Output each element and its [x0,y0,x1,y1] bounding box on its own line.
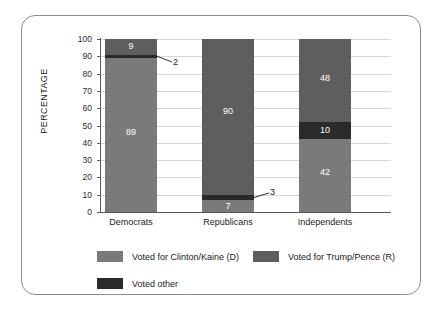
legend-item-other[interactable]: Voted other [97,278,178,289]
legend-item-trump[interactable]: Voted for Trump/Pence (R) [253,251,395,262]
legend-swatch-trump-icon [253,251,279,262]
legend-swatch-other-icon [97,278,123,289]
legend-label-other: Voted other [132,279,178,289]
legend: Voted for Clinton/Kaine (D) Voted for Tr… [0,0,442,310]
legend-label-trump: Voted for Trump/Pence (R) [288,252,395,262]
legend-item-clinton[interactable]: Voted for Clinton/Kaine (D) [97,251,239,262]
stacked-bar-chart: PERCENTAGE 100 90 80 70 60 50 40 30 20 1… [0,0,442,310]
legend-label-clinton: Voted for Clinton/Kaine (D) [132,252,239,262]
legend-swatch-clinton-icon [97,251,123,262]
